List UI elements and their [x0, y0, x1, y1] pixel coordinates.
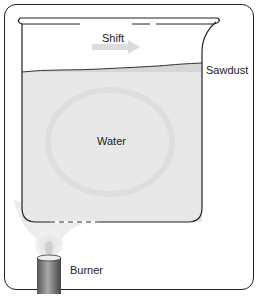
water-label: Water — [97, 135, 126, 147]
burner-label: Burner — [70, 264, 103, 276]
beaker-rim — [18, 18, 219, 24]
sawdust-label: Sawdust — [206, 64, 248, 76]
convection-diagram — [0, 0, 259, 296]
burner-body — [37, 258, 61, 294]
shift-label: Shift — [102, 32, 124, 44]
